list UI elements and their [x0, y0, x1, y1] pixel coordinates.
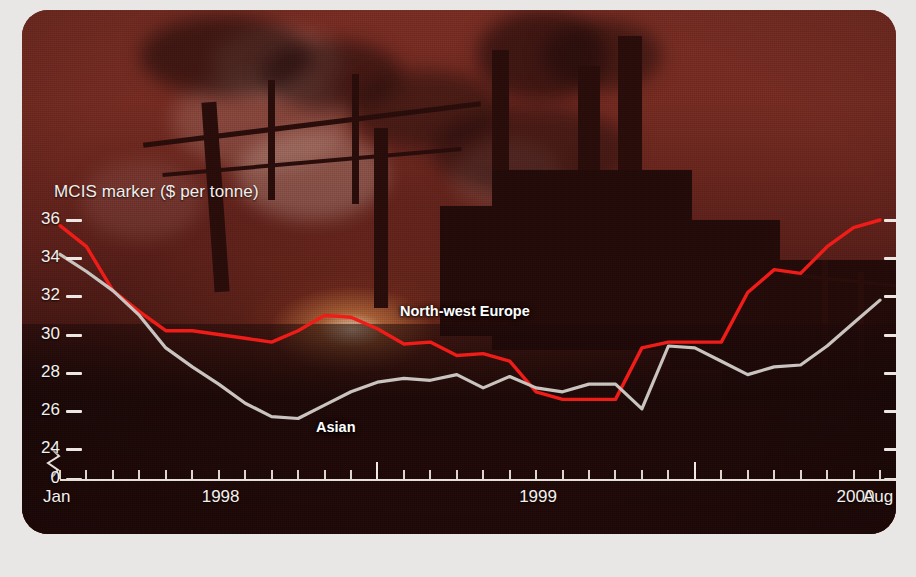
x-tick-2 — [112, 470, 114, 479]
x-tick-31 — [879, 470, 881, 479]
y-axis-label-30: 30 — [26, 324, 60, 344]
x-tick-16 — [482, 470, 484, 479]
x-axis-label-aug: Aug — [863, 487, 893, 507]
x-tick-28 — [800, 470, 802, 479]
y-axis-label-24: 24 — [26, 438, 60, 458]
series-label-north-west-europe: North-west Europe — [400, 303, 530, 319]
y-tick-right-28 — [884, 372, 896, 375]
x-tick-19 — [562, 470, 564, 479]
x-tick-27 — [773, 470, 775, 479]
x-tick-5 — [191, 470, 193, 479]
x-tick-7 — [244, 470, 246, 479]
series-label-asian: Asian — [316, 419, 356, 435]
y-tick-right-30 — [884, 334, 896, 337]
line-chart: MCIS marker ($ per tonne) 36343230282624… — [22, 10, 896, 534]
x-tick-1 — [85, 470, 87, 479]
x-tick-14 — [429, 470, 431, 479]
y-tick-left-36 — [66, 219, 82, 222]
y-tick-right-36 — [884, 219, 896, 222]
y-axis-label-34: 34 — [26, 247, 60, 267]
series-line-asian — [60, 254, 880, 418]
figure: MCIS marker ($ per tonne) 36343230282624… — [0, 0, 916, 577]
y-tick-left-24 — [66, 448, 82, 451]
x-tick-20 — [588, 470, 590, 479]
y-tick-left-30 — [66, 334, 82, 337]
x-tick-26 — [747, 470, 749, 479]
y-axis-label-0: 0 — [26, 468, 60, 488]
x-tick-15 — [456, 470, 458, 479]
y-tick-left-26 — [66, 410, 82, 413]
x-tick-9 — [297, 470, 299, 479]
x-tick-30 — [853, 470, 855, 479]
x-axis-label-1999: 1999 — [519, 487, 557, 507]
x-tick-6 — [218, 470, 220, 479]
x-tick-24 — [694, 462, 696, 479]
x-tick-17 — [509, 470, 511, 479]
x-tick-3 — [138, 470, 140, 479]
y-axis-label-36: 36 — [26, 209, 60, 229]
x-tick-22 — [641, 470, 643, 479]
chart-panel: MCIS marker ($ per tonne) 36343230282624… — [22, 10, 896, 534]
y-axis-label-28: 28 — [26, 362, 60, 382]
y-tick-right-34 — [884, 257, 896, 260]
y-tick-left-34 — [66, 257, 82, 260]
x-tick-21 — [614, 470, 616, 479]
x-tick-10 — [324, 470, 326, 479]
x-tick-12 — [376, 462, 378, 479]
x-axis-label-jan: Jan — [43, 487, 70, 507]
x-axis-label-1998: 1998 — [202, 487, 240, 507]
y-axis-label-32: 32 — [26, 285, 60, 305]
x-tick-23 — [667, 470, 669, 479]
x-tick-0 — [59, 470, 61, 479]
x-tick-13 — [403, 470, 405, 479]
x-axis-line — [60, 479, 894, 481]
x-tick-18 — [535, 470, 537, 479]
x-tick-25 — [720, 470, 722, 479]
x-tick-4 — [165, 470, 167, 479]
x-tick-8 — [271, 470, 273, 479]
series-lines — [22, 10, 896, 534]
x-tick-11 — [350, 470, 352, 479]
y-tick-right-24 — [884, 448, 896, 451]
y-tick-left-32 — [66, 295, 82, 298]
x-tick-29 — [826, 470, 828, 479]
y-tick-right-32 — [884, 295, 896, 298]
y-tick-right-26 — [884, 410, 896, 413]
y-axis-label-26: 26 — [26, 400, 60, 420]
y-tick-left-28 — [66, 372, 82, 375]
